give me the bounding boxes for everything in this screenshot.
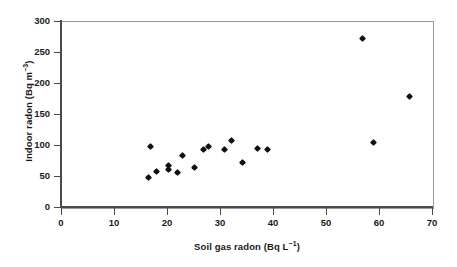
y-tick-mark — [54, 114, 61, 115]
x-tick-mark — [114, 208, 115, 215]
x-tick-label: 50 — [311, 218, 341, 228]
y-tick-label: 0 — [18, 202, 50, 212]
x-tick-mark — [326, 208, 327, 215]
x-tick-mark — [220, 208, 221, 215]
x-tick-mark — [432, 208, 433, 215]
y-tick-mark — [54, 145, 61, 146]
y-axis-title-superscript: −3 — [22, 64, 29, 72]
x-tick-label: 60 — [364, 218, 394, 228]
plot-area — [61, 21, 434, 209]
x-tick-label: 70 — [417, 218, 447, 228]
x-tick-mark — [379, 208, 380, 215]
x-tick-label: 30 — [205, 218, 235, 228]
y-tick-mark — [54, 207, 61, 208]
y-tick-mark — [54, 52, 61, 53]
x-axis-title-superscript: −1 — [288, 240, 296, 247]
x-axis-title: Soil gas radon (Bq L−1) — [61, 240, 433, 252]
x-tick-mark — [61, 208, 62, 215]
y-tick-label: 150 — [18, 109, 50, 119]
x-axis-title-end: ) — [297, 241, 300, 252]
x-tick-mark — [167, 208, 168, 215]
y-tick-label: 200 — [18, 78, 50, 88]
y-tick-mark — [54, 21, 61, 22]
y-tick-label: 300 — [18, 16, 50, 26]
scatter-plot-figure: Indoor radon (Bq m−3) Soil gas radon (Bq… — [0, 0, 457, 267]
y-axis-title-end: ) — [23, 60, 34, 63]
y-tick-label: 250 — [18, 47, 50, 57]
x-tick-label: 40 — [258, 218, 288, 228]
y-tick-mark — [54, 176, 61, 177]
y-tick-label: 50 — [18, 171, 50, 181]
x-tick-label: 10 — [99, 218, 129, 228]
x-axis-title-text: Soil gas radon (Bq L — [194, 241, 288, 252]
x-tick-mark — [273, 208, 274, 215]
x-axis-line — [60, 206, 433, 208]
x-tick-label: 20 — [152, 218, 182, 228]
x-tick-label: 0 — [46, 218, 76, 228]
y-tick-mark — [54, 83, 61, 84]
y-tick-label: 100 — [18, 140, 50, 150]
